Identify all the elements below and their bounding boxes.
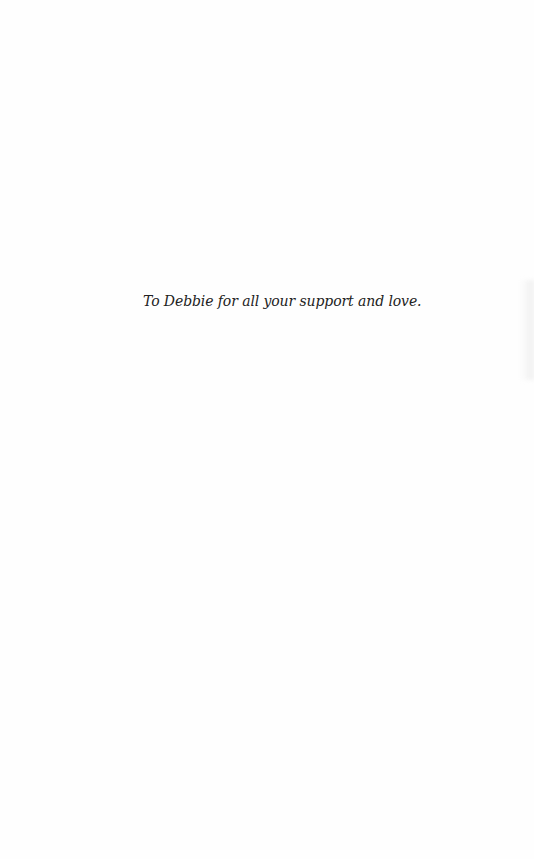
scan-bleed-through [520,280,534,380]
book-page: To Debbie for all your support and love. [0,0,534,859]
dedication-text: To Debbie for all your support and love. [143,293,421,309]
